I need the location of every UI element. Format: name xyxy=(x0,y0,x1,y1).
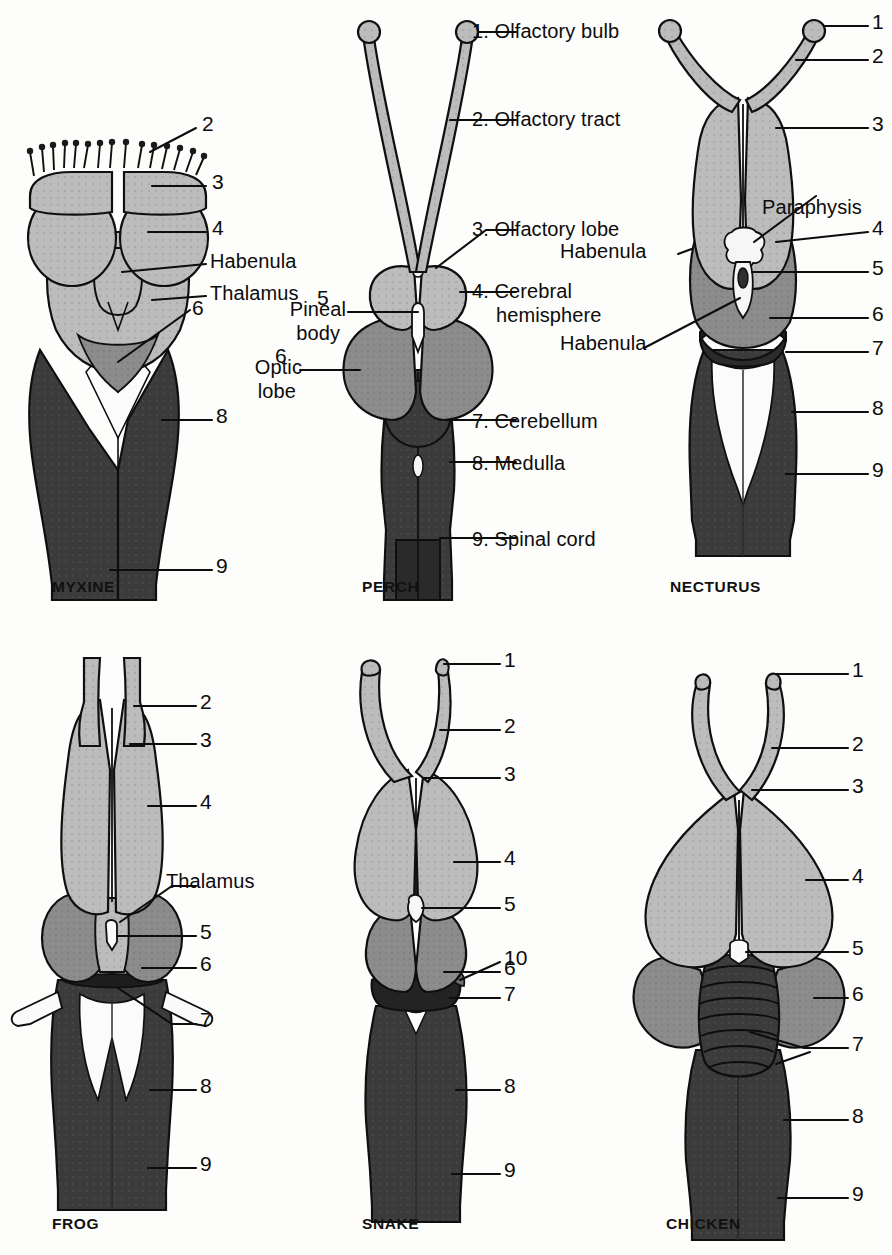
necturus-olfactory-tract-left xyxy=(666,32,740,112)
necturus-label-7: 7 xyxy=(872,336,884,360)
myxine-olfactory-lobe-right xyxy=(124,172,206,215)
legend-item-9: 9. Spinal cord xyxy=(472,528,596,550)
legend-item-4-line2: hemisphere xyxy=(496,304,602,326)
panel-chicken: 1 2 3 4 5 6 7 8 9 CHICKEN xyxy=(600,650,892,1255)
snake-olfactory-bulb-left xyxy=(362,660,380,675)
frog-olfactory-tract-left xyxy=(79,658,100,746)
necturus-olfactory-bulb-left xyxy=(659,20,681,42)
chicken-label-4: 4 xyxy=(852,864,864,888)
chicken-hemisphere-right xyxy=(740,790,832,967)
perch-label-pineal-line1: Pineal xyxy=(228,298,346,320)
snake-brain-drawing xyxy=(300,650,600,1255)
snake-label-2: 2 xyxy=(504,714,516,738)
snake-olfactory-tract-right xyxy=(416,670,451,782)
chicken-label-1: 1 xyxy=(852,658,864,682)
chicken-olfactory-tract-left xyxy=(692,684,740,800)
snake-label-7: 7 xyxy=(504,982,516,1006)
frog-olfactory-tract-right xyxy=(124,658,145,746)
chicken-label-6: 6 xyxy=(852,982,864,1006)
myxine-label-3: 3 xyxy=(212,170,224,194)
perch-fourth-ventricle xyxy=(413,455,423,477)
frog-label-6: 6 xyxy=(200,952,212,976)
legend-item-8: 8. Medulla xyxy=(472,452,565,474)
snake-olfactory-bulb-right xyxy=(436,659,449,675)
snake-label-8: 8 xyxy=(504,1074,516,1098)
perch-olfactory-tract-left xyxy=(364,38,420,272)
panel-snake: 1 2 3 4 5 6 10 7 8 9 SNAKE xyxy=(300,650,600,1255)
snake-hemisphere-left xyxy=(355,770,416,920)
snake-hemisphere-right xyxy=(416,770,477,920)
perch-label-optic-line2: lobe xyxy=(188,380,296,402)
snake-label-3: 3 xyxy=(504,762,516,786)
snake-label-9: 9 xyxy=(504,1158,516,1182)
necturus-olfactory-tract-right xyxy=(746,32,818,112)
snake-label-4: 4 xyxy=(504,846,516,870)
frog-label-3: 3 xyxy=(200,728,212,752)
legend-item-3: 3. Olfactory lobe xyxy=(472,218,619,240)
panel-necturus: 1 2 3 Paraphysis 4 5 6 Habenula 7 8 9 NE… xyxy=(600,0,892,620)
necturus-olfactory-bulb-right xyxy=(803,20,825,42)
frog-label-2: 2 xyxy=(200,690,212,714)
snake-label-1: 1 xyxy=(504,648,516,672)
chicken-label-5: 5 xyxy=(852,936,864,960)
necturus-label-1: 1 xyxy=(872,10,884,34)
chicken-label-3: 3 xyxy=(852,774,864,798)
leader-myxine-2 xyxy=(150,128,196,152)
myxine-olfactory-lobe-left xyxy=(30,172,112,215)
caption-chicken: CHICKEN xyxy=(666,1215,741,1233)
chicken-label-2: 2 xyxy=(852,732,864,756)
chicken-label-7: 7 xyxy=(852,1032,864,1056)
frog-brain-drawing xyxy=(0,650,300,1255)
perch-label-optic-line1: Optic xyxy=(188,356,302,378)
legend-item-7: 7. Cerebellum xyxy=(472,410,598,432)
necturus-label-2: 2 xyxy=(872,44,884,68)
frog-label-5: 5 xyxy=(200,920,212,944)
necturus-label-5: 5 xyxy=(872,256,884,280)
frog-label-9: 9 xyxy=(200,1152,212,1176)
snake-label-10: 10 xyxy=(504,946,528,970)
myxine-label-9: 9 xyxy=(216,554,228,578)
chicken-optic-lobe-left xyxy=(634,958,709,1048)
necturus-label-habenula: Habenula xyxy=(560,332,646,354)
caption-perch: PERCH xyxy=(362,578,419,596)
myxine-label-8: 8 xyxy=(216,404,228,428)
chicken-olfactory-bulb-right xyxy=(766,674,781,690)
necturus-label-6: 6 xyxy=(872,302,884,326)
snake-olfactory-tract-left xyxy=(360,670,412,782)
perch-label-pineal-line2: body xyxy=(228,322,340,344)
chicken-brain-drawing xyxy=(600,650,892,1255)
perch-optic-lobe-left xyxy=(344,317,416,420)
myxine-label-habenula: Habenula xyxy=(210,250,296,272)
necturus-label-3: 3 xyxy=(872,112,884,136)
panel-frog: 2 3 4 Thalamus 5 6 7 8 9 FROG xyxy=(0,650,300,1255)
frog-label-4: 4 xyxy=(200,790,212,814)
snake-label-5: 5 xyxy=(504,892,516,916)
necturus-label-4: 4 xyxy=(872,216,884,240)
chicken-label-8: 8 xyxy=(852,1104,864,1128)
caption-necturus: NECTURUS xyxy=(670,578,761,596)
chicken-olfactory-tract-right xyxy=(740,684,784,800)
myxine-label-2: 2 xyxy=(202,112,214,136)
frog-label-8: 8 xyxy=(200,1074,212,1098)
myxine-label-6: 6 xyxy=(192,296,204,320)
chicken-label-9: 9 xyxy=(852,1182,864,1206)
chicken-hemisphere-left xyxy=(646,790,738,967)
legend-item-4-line1: 4. Cerebral xyxy=(472,280,572,302)
chicken-olfactory-bulb-left xyxy=(695,674,710,689)
necturus-label-9: 9 xyxy=(872,458,884,482)
perch-olfactory-tract-right xyxy=(416,38,472,272)
necturus-habenula-body xyxy=(738,268,748,288)
myxine-label-4: 4 xyxy=(212,216,224,240)
legend-item-1: 1. Olfactory bulb xyxy=(472,20,619,42)
frog-label-7: 7 xyxy=(200,1008,212,1032)
necturus-label-8: 8 xyxy=(872,396,884,420)
caption-snake: SNAKE xyxy=(362,1215,419,1233)
frog-label-thalamus: Thalamus xyxy=(166,870,255,892)
caption-frog: FROG xyxy=(52,1215,99,1233)
perch-olfactory-bulb-left xyxy=(358,21,380,43)
caption-myxine: MYXINE xyxy=(52,578,115,596)
necturus-label-paraphysis: Paraphysis xyxy=(762,196,862,218)
necturus-brain-drawing xyxy=(600,0,892,620)
chicken-optic-lobe-right xyxy=(769,958,844,1048)
legend-item-2: 2. Olfactory tract xyxy=(472,108,621,130)
